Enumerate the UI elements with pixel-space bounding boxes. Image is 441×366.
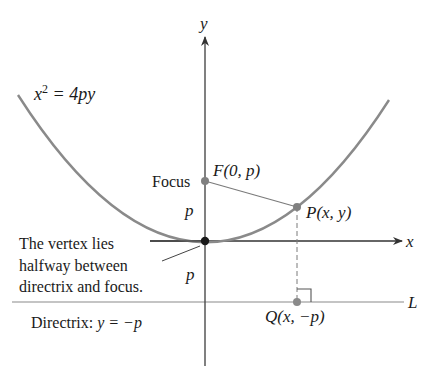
vertex-note: The vertex lies halfway between directri… <box>19 235 143 295</box>
point-q-label: Q(x, −p) <box>265 307 325 326</box>
vertex-pointer-diagonal <box>162 246 200 261</box>
focus-to-p-segment <box>205 181 297 207</box>
directrix-caption: Directrix: y = −p <box>31 314 142 332</box>
point-p-label: P(x, y) <box>305 203 352 222</box>
vertex-point <box>201 237 209 245</box>
point-p <box>293 203 301 211</box>
x-axis-label: x <box>405 232 414 251</box>
focus-coord-label: F(0, p) <box>212 161 261 180</box>
distance-label-lower: p <box>185 265 195 284</box>
focus-word-label: Focus <box>152 173 190 190</box>
equation-label: x2 = 4py <box>33 82 95 104</box>
parabola-diagram: y x x2 = 4py Focus F(0, p) P(x, y) Q(x, … <box>0 0 441 366</box>
y-axis-label: y <box>198 14 208 33</box>
point-q <box>293 298 301 306</box>
focus-point <box>201 177 209 185</box>
directrix-line-label: L <box>407 293 417 312</box>
distance-label-upper: p <box>184 201 194 220</box>
